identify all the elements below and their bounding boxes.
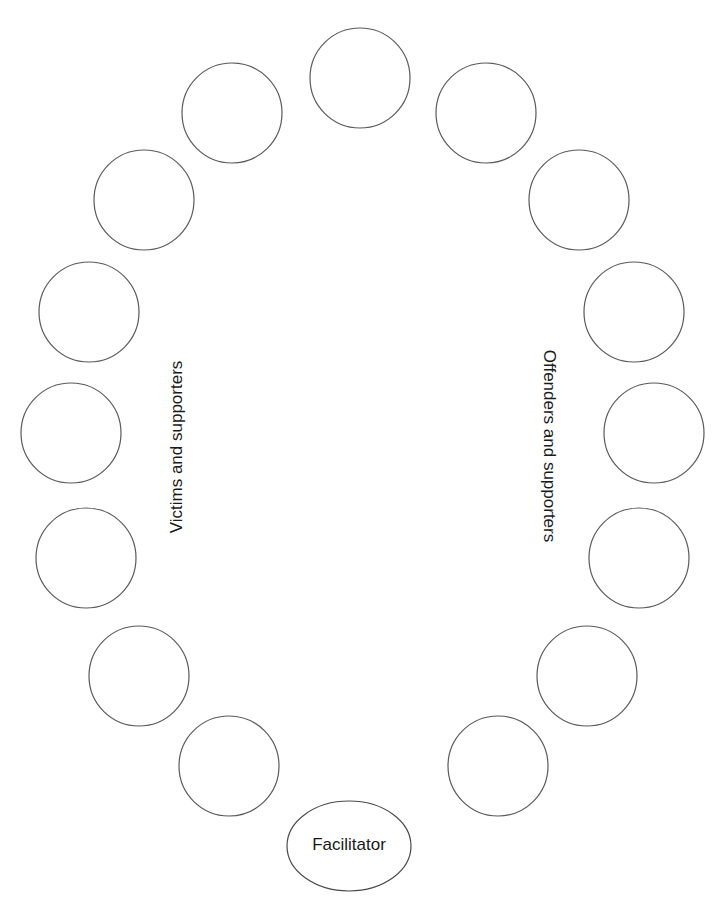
seat-left-4	[21, 383, 121, 483]
seat-left-2	[94, 150, 194, 250]
facilitator-label: Facilitator	[312, 835, 386, 854]
victims-group-label: Victims and supporters	[167, 361, 186, 534]
seating-diagram: Facilitator Victims and supporters Offen…	[0, 0, 728, 910]
seat-right-7	[448, 716, 548, 816]
seat-top	[310, 28, 410, 128]
offenders-group-label: Offenders and supporters	[540, 350, 559, 542]
seat-right-4	[604, 383, 704, 483]
seat-right-6	[537, 626, 637, 726]
seats-group	[21, 28, 704, 816]
seat-right-2	[529, 150, 629, 250]
seat-left-1	[182, 63, 282, 163]
seat-right-3	[584, 262, 684, 362]
seat-left-5	[36, 508, 136, 608]
seat-left-3	[39, 262, 139, 362]
seat-right-1	[436, 63, 536, 163]
seat-left-6	[89, 626, 189, 726]
seating-diagram-canvas: Facilitator Victims and supporters Offen…	[0, 0, 728, 910]
seat-left-7	[179, 716, 279, 816]
seat-right-5	[589, 508, 689, 608]
